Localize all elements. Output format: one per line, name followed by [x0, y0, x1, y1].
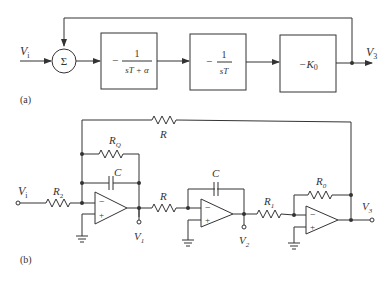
r2-label: R2 [52, 185, 64, 200]
diagram-canvas: Vi Σ − 1 sT + α − 1 sT −K0 V3 (a) Vi R2 [0, 0, 392, 283]
wire [294, 227, 306, 243]
c1-label: C [114, 166, 122, 178]
input-label-b: Vi [18, 184, 28, 200]
circuit-schematic: Vi R2 R RQ C − + V1 [16, 116, 374, 266]
opamp-1-plus: + [99, 210, 104, 220]
block-1-numerator: 1 [135, 48, 140, 59]
resistor-r-mid [152, 204, 188, 212]
opamp-1-minus: − [99, 196, 105, 207]
c2-label: C [212, 167, 220, 179]
r0-label: R0 [315, 175, 327, 190]
v3-label: V3 [362, 200, 373, 215]
opamp-2-minus: − [205, 202, 211, 213]
junction-dot [349, 218, 353, 222]
part-b-label: (b) [20, 254, 32, 266]
block-1-denominator: sT + α [125, 65, 149, 75]
block-2-numerator: 1 [222, 49, 227, 60]
v1-label: V1 [134, 230, 144, 245]
ground-symbol [288, 243, 300, 249]
resistor-r0 [294, 191, 351, 215]
cap-gap [215, 187, 217, 191]
input-terminal[interactable] [16, 201, 20, 205]
v3-terminal[interactable] [370, 218, 374, 222]
block-1-sign: − [112, 54, 118, 66]
r1-label: R1 [263, 195, 274, 210]
rq-label: RQ [108, 134, 121, 149]
junction-dot [350, 61, 354, 65]
v2-label: V2 [239, 234, 250, 249]
wire [188, 189, 244, 214]
input-label-a: Vi [20, 44, 30, 60]
wire [188, 220, 201, 240]
r-feedback-label: R [159, 128, 167, 140]
junction-dot [80, 201, 84, 205]
part-a-label: (a) [20, 94, 31, 106]
block-2-denominator: sT [220, 66, 230, 76]
opamp-2-plus: + [205, 215, 210, 225]
ground-symbol [182, 240, 194, 246]
sigma-symbol: Σ [61, 55, 67, 67]
block-2-sign: − [206, 55, 212, 67]
opamp-3-plus: + [310, 222, 315, 232]
v2-terminal[interactable] [242, 225, 246, 229]
ground-symbol [76, 236, 88, 242]
resistor-r1 [257, 210, 294, 218]
r-mid-label: R [159, 190, 167, 202]
opamp-3-minus: − [310, 209, 316, 220]
block-diagram: Vi Σ − 1 sT + α − 1 sT −K0 V3 (a) [20, 18, 377, 106]
v1-terminal[interactable] [137, 220, 141, 224]
output-label-a: V3 [366, 45, 377, 61]
resistor-rq [82, 150, 139, 183]
junction-dot [349, 193, 353, 197]
block-3-gain: −K0 [299, 58, 318, 72]
